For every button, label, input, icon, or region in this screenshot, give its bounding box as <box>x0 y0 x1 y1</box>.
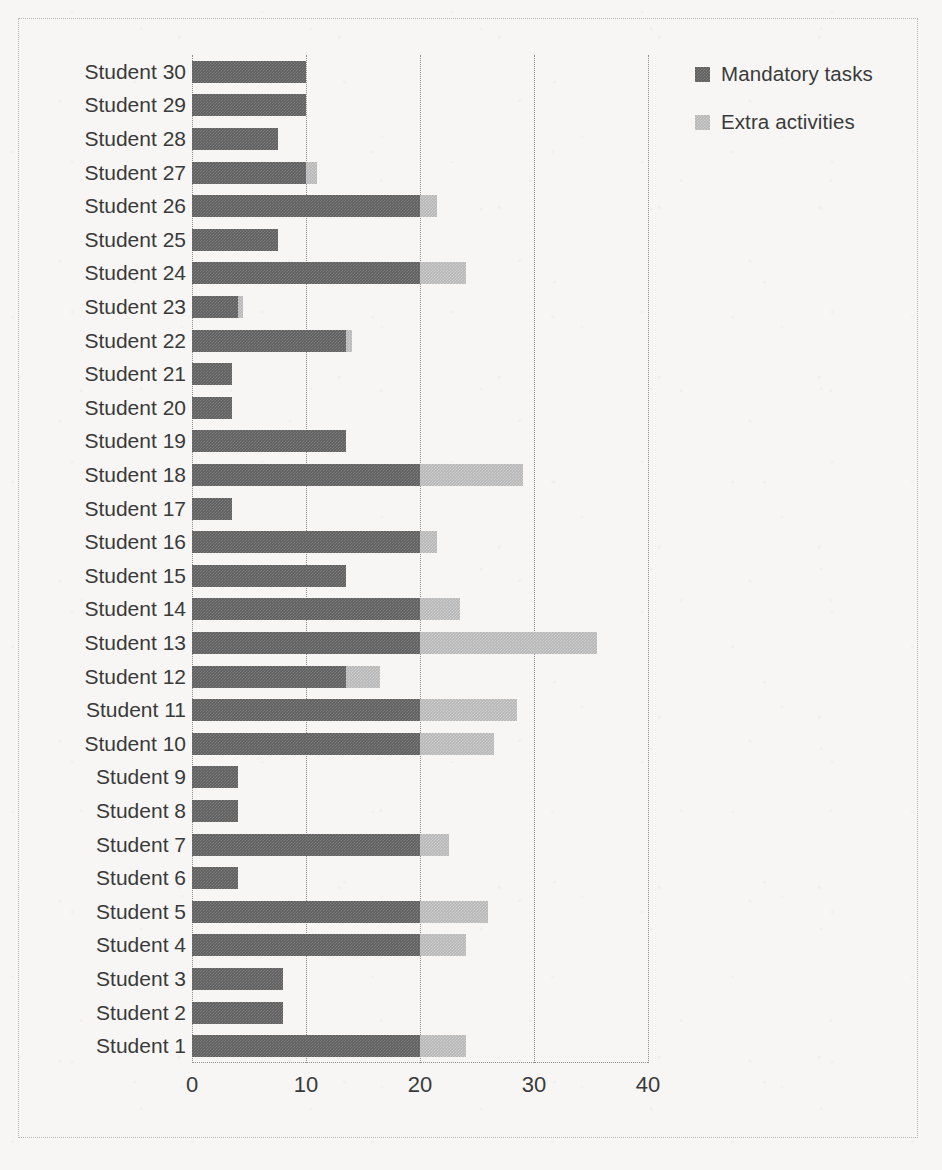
bar-segment-extra[interactable] <box>420 531 437 553</box>
bar-segment-extra[interactable] <box>306 162 317 184</box>
bar-row[interactable] <box>192 598 460 620</box>
bar-segment-extra[interactable] <box>420 598 460 620</box>
bar-segment-mandatory[interactable] <box>192 330 346 352</box>
bar-segment-mandatory[interactable] <box>192 262 420 284</box>
category-label: Student 15 <box>20 565 186 587</box>
category-label: Student 6 <box>20 867 186 889</box>
gridline-30 <box>534 55 536 1063</box>
bar-row[interactable] <box>192 464 523 486</box>
bar-segment-extra[interactable] <box>420 262 466 284</box>
bar-segment-mandatory[interactable] <box>192 464 420 486</box>
bar-segment-mandatory[interactable] <box>192 430 346 452</box>
bar-row[interactable] <box>192 733 494 755</box>
legend-item-mandatory-tasks[interactable]: Mandatory tasks <box>695 63 942 85</box>
bar-segment-mandatory[interactable] <box>192 363 232 385</box>
bar-row[interactable] <box>192 1002 283 1024</box>
bar-row[interactable] <box>192 296 243 318</box>
bar-row[interactable] <box>192 397 232 419</box>
plot-area <box>192 55 648 1063</box>
category-label: Student 26 <box>20 195 186 217</box>
bar-row[interactable] <box>192 430 346 452</box>
bar-segment-mandatory[interactable] <box>192 867 238 889</box>
bar-row[interactable] <box>192 94 306 116</box>
bar-segment-mandatory[interactable] <box>192 733 420 755</box>
bar-row[interactable] <box>192 61 306 83</box>
bar-segment-mandatory[interactable] <box>192 632 420 654</box>
bar-row[interactable] <box>192 498 232 520</box>
bar-segment-mandatory[interactable] <box>192 195 420 217</box>
bar-segment-mandatory[interactable] <box>192 699 420 721</box>
bar-segment-mandatory[interactable] <box>192 296 238 318</box>
bar-segment-extra[interactable] <box>420 195 437 217</box>
bar-row[interactable] <box>192 162 317 184</box>
category-label: Student 12 <box>20 666 186 688</box>
bar-row[interactable] <box>192 565 346 587</box>
bar-segment-mandatory[interactable] <box>192 397 232 419</box>
category-label: Student 17 <box>20 498 186 520</box>
x-tick-label: 20 <box>408 1072 432 1098</box>
bar-row[interactable] <box>192 229 278 251</box>
bar-segment-mandatory[interactable] <box>192 934 420 956</box>
bar-row[interactable] <box>192 128 278 150</box>
bar-segment-mandatory[interactable] <box>192 666 346 688</box>
bar-segment-mandatory[interactable] <box>192 162 306 184</box>
bar-segment-mandatory[interactable] <box>192 901 420 923</box>
category-label: Student 30 <box>20 61 186 83</box>
bar-segment-extra[interactable] <box>420 464 523 486</box>
bar-segment-extra[interactable] <box>238 296 244 318</box>
bar-row[interactable] <box>192 834 449 856</box>
bar-row[interactable] <box>192 666 380 688</box>
value-axis: 010203040 <box>192 1072 648 1112</box>
bar-row[interactable] <box>192 262 466 284</box>
bar-row[interactable] <box>192 800 238 822</box>
bar-segment-extra[interactable] <box>420 699 517 721</box>
bar-row[interactable] <box>192 934 466 956</box>
bar-segment-mandatory[interactable] <box>192 968 283 990</box>
bar-row[interactable] <box>192 632 597 654</box>
bar-row[interactable] <box>192 531 437 553</box>
bar-segment-mandatory[interactable] <box>192 498 232 520</box>
bar-segment-extra[interactable] <box>420 834 449 856</box>
bar-segment-mandatory[interactable] <box>192 766 238 788</box>
category-label: Student 7 <box>20 834 186 856</box>
bar-row[interactable] <box>192 330 352 352</box>
bar-segment-extra[interactable] <box>420 934 466 956</box>
bar-row[interactable] <box>192 699 517 721</box>
bar-segment-mandatory[interactable] <box>192 1035 420 1057</box>
bar-row[interactable] <box>192 867 238 889</box>
bar-segment-extra[interactable] <box>420 632 597 654</box>
bar-segment-extra[interactable] <box>420 733 494 755</box>
bar-row[interactable] <box>192 1035 466 1057</box>
bar-segment-extra[interactable] <box>346 666 380 688</box>
bar-segment-mandatory[interactable] <box>192 229 278 251</box>
category-label: Student 3 <box>20 968 186 990</box>
category-label: Student 24 <box>20 262 186 284</box>
bar-segment-mandatory[interactable] <box>192 531 420 553</box>
bar-segment-extra[interactable] <box>420 901 488 923</box>
bar-segment-mandatory[interactable] <box>192 800 238 822</box>
x-tick-label: 10 <box>294 1072 318 1098</box>
bar-segment-extra[interactable] <box>420 1035 466 1057</box>
bar-segment-mandatory[interactable] <box>192 94 306 116</box>
bar-row[interactable] <box>192 968 283 990</box>
bar-segment-mandatory[interactable] <box>192 565 346 587</box>
category-label: Student 9 <box>20 766 186 788</box>
bar-segment-mandatory[interactable] <box>192 1002 283 1024</box>
bar-segment-mandatory[interactable] <box>192 834 420 856</box>
category-label: Student 19 <box>20 430 186 452</box>
bar-segment-mandatory[interactable] <box>192 598 420 620</box>
bar-row[interactable] <box>192 766 238 788</box>
bar-segment-extra[interactable] <box>346 330 352 352</box>
legend-swatch-icon-mandatory <box>695 67 710 82</box>
legend-label-extra: Extra activities <box>721 110 855 134</box>
legend-swatch-icon-extra <box>695 115 710 130</box>
bar-row[interactable] <box>192 195 437 217</box>
bar-row[interactable] <box>192 901 488 923</box>
bar-segment-mandatory[interactable] <box>192 61 306 83</box>
bar-row[interactable] <box>192 363 232 385</box>
category-label: Student 20 <box>20 397 186 419</box>
bar-segment-mandatory[interactable] <box>192 128 278 150</box>
legend-item-extra-activities[interactable]: Extra activities <box>695 111 942 133</box>
category-label: Student 25 <box>20 229 186 251</box>
category-label: Student 18 <box>20 464 186 486</box>
